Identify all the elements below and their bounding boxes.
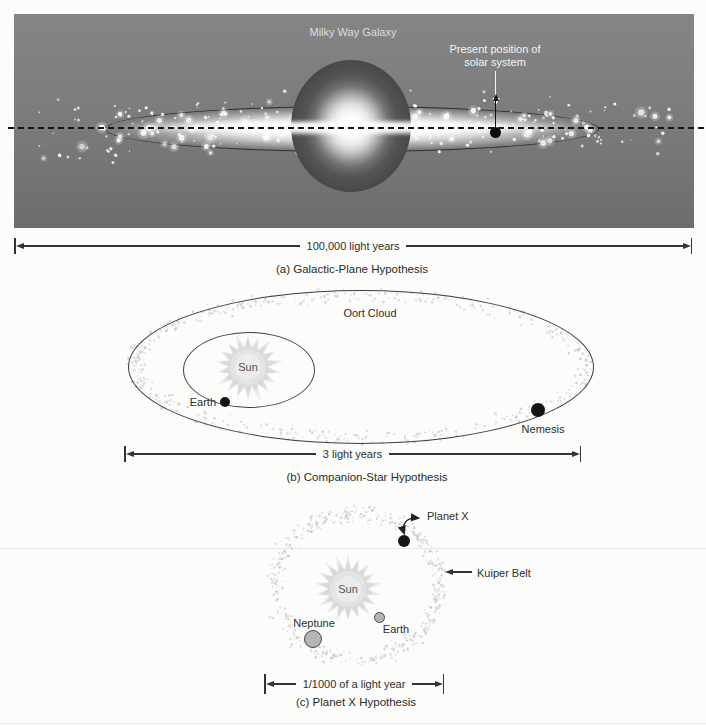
kuiper-belt-label: Kuiper Belt — [477, 567, 531, 580]
earth-label-b: Earth — [156, 396, 216, 409]
scale-label-c: 1/1000 of a light year — [296, 678, 413, 690]
scale-label-b: 3 light years — [316, 448, 389, 460]
page-bottom-edge — [0, 723, 706, 724]
neptune-dot — [304, 630, 322, 648]
sun-label-b: Sun — [238, 361, 258, 373]
earth-dot-c — [374, 612, 385, 623]
scale-bar-b: 3 light years — [124, 446, 581, 462]
annotation-line-1: Present position of — [449, 43, 540, 55]
planet-x-arrow-icon — [390, 506, 435, 546]
caption-b: (b) Companion-Star Hypothesis — [167, 471, 567, 483]
textbook-figure-page: { "panel_a": { "title": "Milky Way Galax… — [0, 0, 706, 725]
caption-c: (c) Planet X Hypothesis — [156, 696, 556, 708]
annotation-line-2: solar system — [464, 56, 526, 68]
solar-system-annotation: Present position of solar system — [420, 43, 570, 69]
scale-bar-a: 100,000 light years — [14, 238, 692, 254]
sun-icon-c: Sun — [314, 555, 382, 623]
sun-label-c: Sun — [338, 583, 358, 595]
scale-label-a: 100,000 light years — [300, 240, 407, 252]
earth-label-c: Earth — [346, 623, 446, 636]
kuiper-belt-arrow-icon — [445, 569, 472, 575]
oort-cloud-label: Oort Cloud — [270, 307, 470, 320]
milky-way-title: Milky Way Galaxy — [253, 26, 453, 39]
earth-dot-b — [220, 397, 230, 407]
galactic-plane-dashed-line — [8, 127, 704, 129]
nemesis-dot — [531, 403, 545, 417]
galaxy-panel: Milky Way Galaxy Present position of sol… — [14, 14, 694, 228]
sun-icon-b: Sun — [214, 333, 282, 401]
scale-bar-c: 1/1000 of a light year — [264, 674, 444, 694]
nemesis-label: Nemesis — [493, 423, 593, 436]
